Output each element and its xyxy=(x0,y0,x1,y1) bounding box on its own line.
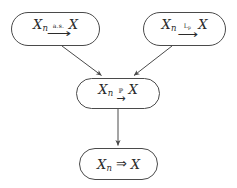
node-almost-sure-lhs: X xyxy=(33,18,42,31)
right-arrow-icon: → xyxy=(116,94,125,103)
diagram-canvas: Xn a.s. ⟶ X Xn Lp ⟶ X Xn ℙ → X xyxy=(0,0,237,188)
node-lp-rhs: X xyxy=(198,18,207,31)
node-distribution-formula: Xn ⇒ X xyxy=(97,158,140,171)
node-distribution-lhs: X xyxy=(97,158,106,171)
node-probability[interactable]: Xn ℙ → X xyxy=(76,78,160,109)
node-lp-formula: Xn Lp ⟶ X xyxy=(161,18,207,40)
long-right-arrow-icon: ⟶ xyxy=(177,30,198,39)
node-almost-sure-formula: Xn a.s. ⟶ X xyxy=(33,18,78,40)
edge-almost-sure-to-probability xyxy=(62,46,102,76)
node-probability-lhs: X xyxy=(98,83,107,96)
node-lp-labeled-arrow: Lp ⟶ xyxy=(180,23,196,39)
edge-lp-to-probability xyxy=(134,46,172,76)
node-distribution[interactable]: Xn ⇒ X xyxy=(79,148,158,180)
node-probability-labeled-arrow: ℙ → xyxy=(116,88,125,104)
node-distribution-rhs: X xyxy=(131,158,140,171)
node-probability-rhs: X xyxy=(129,83,138,96)
long-right-arrow-icon: ⟶ xyxy=(47,29,70,38)
node-lp[interactable]: Xn Lp ⟶ X xyxy=(143,12,226,46)
node-lp-lhs-subscript: n xyxy=(171,24,176,33)
node-almost-sure[interactable]: Xn a.s. ⟶ X xyxy=(11,12,100,46)
node-probability-formula: Xn ℙ → X xyxy=(98,83,138,105)
node-almost-sure-labeled-arrow: a.s. ⟶ xyxy=(51,23,66,39)
node-distribution-lhs-subscript: n xyxy=(106,164,111,173)
node-probability-lhs-subscript: n xyxy=(108,89,113,98)
double-right-arrow-icon: ⇒ xyxy=(116,157,127,170)
node-lp-lhs: X xyxy=(161,18,170,31)
